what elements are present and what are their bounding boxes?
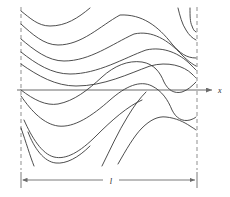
curve-12 [178, 8, 196, 40]
curve-10 [102, 92, 146, 166]
curve-8 [24, 100, 142, 158]
curve-6 [21, 62, 196, 105]
contour-figure: x l [0, 0, 230, 197]
curve-9 [28, 132, 90, 163]
curve-1 [21, 8, 90, 26]
curve-5 [21, 64, 196, 86]
curve-13 [190, 8, 196, 32]
dashed-boundaries-group [21, 7, 197, 170]
figure-container: x l [0, 0, 230, 197]
curve-3 [21, 33, 196, 66]
curve-family [21, 8, 196, 166]
x-axis-label: x [217, 86, 222, 95]
curve-14 [21, 128, 34, 166]
curve-4 [21, 49, 196, 74]
curve-11 [118, 117, 196, 164]
